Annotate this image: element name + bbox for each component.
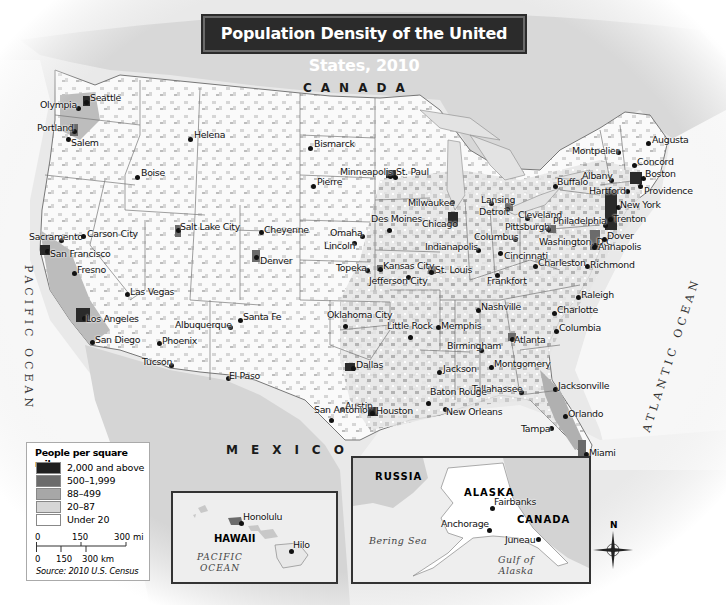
city-dot-baton-rouge: [426, 401, 431, 406]
city-dot-st-louis: [429, 270, 434, 275]
city-lincoln: Lincoln: [324, 240, 355, 251]
city-tampa: Tampa: [521, 423, 550, 434]
city-miami: Miami: [589, 447, 616, 458]
city-anchorage: Anchorage: [441, 518, 489, 529]
label-mexico: MEXICO: [226, 443, 357, 457]
city-hilo: Hilo: [293, 539, 310, 550]
city-dot-little-rock: [408, 335, 413, 340]
city-seattle: Seattle: [90, 92, 121, 103]
city-hartford: Hartford: [589, 185, 626, 196]
city-topeka: Topeka: [336, 262, 367, 273]
city-dot-seattle: [84, 100, 89, 105]
city-jacksonville: Jacksonville: [558, 380, 609, 391]
city-phoenix: Phoenix: [162, 335, 197, 346]
city-concord: Concord: [637, 156, 674, 167]
city-salem: Salem: [71, 137, 99, 148]
city-dallas: Dallas: [356, 359, 383, 370]
inset-hawaii: Honolulu Hilo HAWAII PACIFIC OCEAN: [171, 491, 338, 584]
legend-item-2000-plus: 2,000 and above: [36, 461, 144, 473]
city-dot-hilo: [289, 549, 294, 554]
city-dot-helena: [188, 137, 193, 142]
city-san-diego: San Diego: [95, 334, 140, 345]
city-birmingham: Birmingham: [447, 340, 501, 351]
city-dot-carson-city: [81, 234, 86, 239]
city-dot-pierre: [311, 184, 316, 189]
city-des-moines: Des Moines: [371, 213, 422, 224]
city-dot-providence: [638, 184, 643, 189]
legend-item-500-1999: 500–1,999: [36, 474, 115, 486]
city-dot-houston: [370, 411, 375, 416]
city-dot-annapolis: [592, 245, 597, 250]
city-charlotte: Charlotte: [557, 304, 598, 315]
city-carson-city: Carson City: [87, 228, 138, 239]
city-portland: Portland: [37, 122, 73, 133]
city-dot-jackson: [437, 370, 442, 375]
city-fairbanks: Fairbanks: [494, 496, 536, 507]
city-denver: Denver: [260, 255, 292, 266]
city-houston: Houston: [376, 405, 413, 416]
city-helena: Helena: [194, 129, 225, 140]
city-dot-oklahoma-city: [343, 324, 348, 329]
city-el-paso: El Paso: [229, 370, 260, 381]
city-memphis: Memphis: [441, 320, 481, 331]
city-charleston: Charleston: [538, 257, 586, 268]
city-dot-denver: [254, 255, 259, 260]
city-lansing: Lansing: [481, 194, 515, 205]
city-jefferson-city: Jefferson City: [369, 275, 427, 286]
city-cheyenne: Cheyenne: [264, 224, 309, 235]
city-dot-cincinnati: [498, 251, 503, 256]
city-dot-fairbanks: [490, 506, 495, 511]
city-los-angeles: Los Angeles: [86, 313, 139, 324]
city-augusta: Augusta: [652, 134, 688, 145]
city-albuquerque: Albuquerque: [175, 319, 232, 330]
city-dot-anchorage: [487, 528, 492, 533]
label-bering-sea: Bering Sea: [369, 535, 427, 546]
city-orlando: Orlando: [568, 408, 603, 419]
city-sacramento: Sacramento: [29, 231, 83, 242]
city-dot-juneau: [536, 537, 541, 542]
label-hawaii: HAWAII: [214, 533, 255, 544]
city-columbia: Columbia: [559, 322, 601, 333]
city-trenton: Trenton: [613, 213, 646, 224]
city-dover: Dover: [607, 230, 634, 241]
label-gulf-of-alaska: Gulf of Alaska: [491, 554, 541, 576]
source-note: Source: 2010 U.S. Census: [36, 566, 138, 576]
legend: People per square mile 2,000 and above 5…: [26, 442, 150, 581]
city-richmond: Richmond: [590, 259, 635, 270]
city-new-orleans: New Orleans: [446, 406, 502, 417]
city-salt-lake-city: Salt Lake City: [180, 221, 240, 232]
city-albany: Albany: [582, 170, 612, 181]
city-dot-bismarck: [308, 146, 313, 151]
city-bismarck: Bismarck: [314, 138, 355, 149]
city-juneau: Juneau: [505, 534, 535, 545]
city-fresno: Fresno: [77, 264, 106, 275]
city-montgomery: Montgomery: [494, 358, 550, 369]
city-dot-augusta: [646, 141, 651, 146]
city-milwaukee: Milwaukee: [408, 197, 455, 208]
city-philadelphia: Philadelphia: [553, 215, 607, 226]
legend-item-88-499: 88–499: [36, 487, 101, 499]
label-russia: RUSSIA: [375, 471, 422, 482]
label-hawaii-pacific-ocean: PACIFIC OCEAN: [195, 552, 245, 574]
label-alaska-canada: CANADA: [517, 514, 570, 525]
city-baton-rouge: Baton Rouge: [430, 386, 487, 397]
city-omaha: Omaha: [330, 227, 362, 238]
city-little-rock: Little Rock: [387, 320, 433, 331]
city-las-vegas: Las Vegas: [130, 286, 174, 297]
city-st-paul: St. Paul: [396, 166, 429, 177]
city-st-louis: St. Louis: [435, 264, 472, 275]
inset-alaska: RUSSIA ALASKA CANADA Bering Sea Gulf of …: [351, 456, 591, 584]
city-boise: Boise: [141, 167, 165, 178]
city-pierre: Pierre: [317, 176, 342, 187]
city-indianapolis: Indianapolis: [425, 241, 478, 252]
city-olympia: Olympia: [40, 99, 77, 110]
label-canada: CANADA: [303, 81, 414, 95]
map-title: Population Density of the United States,…: [203, 16, 525, 52]
legend-item-under-20: Under 20: [36, 513, 109, 525]
label-pacific-ocean: PACIFIC OCEAN: [22, 265, 35, 411]
city-nashville: Nashville: [481, 301, 521, 312]
city-atlanta: Atlanta: [514, 334, 546, 345]
city-new-york: New York: [620, 199, 661, 210]
compass-rose: N: [590, 520, 636, 570]
city-honolulu: Honolulu: [243, 511, 282, 522]
